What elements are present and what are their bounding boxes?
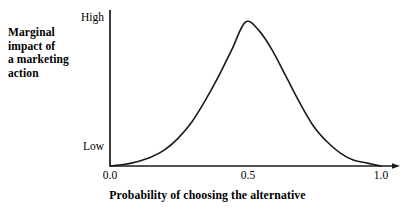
plot-area [0, 0, 415, 211]
data-curve [110, 21, 381, 166]
chart-figure: Marginal impact of a marketing action Hi… [0, 0, 415, 211]
x-axis-title: Probability of choosing the alternative [0, 188, 415, 203]
